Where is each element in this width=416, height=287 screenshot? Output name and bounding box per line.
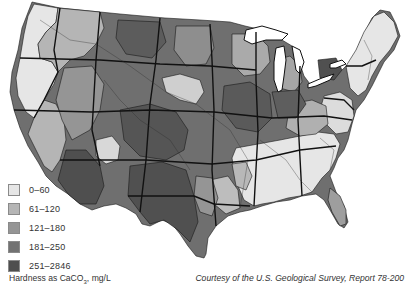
legend-item: 61–120 (8, 199, 71, 218)
map-legend: 0–60 61–120 121–180 181–250 251–2846 (8, 180, 71, 275)
legend-label: 61–120 (29, 204, 60, 214)
legend-item: 181–250 (8, 237, 71, 256)
legend-item: 121–180 (8, 218, 71, 237)
legend-label: 181–250 (29, 242, 65, 252)
legend-swatch-0-60 (8, 184, 20, 196)
legend-item: 0–60 (8, 180, 71, 199)
legend-label: 121–180 (29, 223, 65, 233)
source-credit: Courtesy of the U.S. Geological Survey, … (195, 273, 404, 283)
units-suffix: , mg/L (87, 273, 111, 283)
units-label: Hardness as CaCO3, mg/L (9, 273, 111, 285)
units-prefix: Hardness as CaCO (9, 273, 84, 283)
legend-swatch-61-120 (8, 203, 20, 215)
region-251-2846-texas (128, 162, 198, 242)
legend-swatch-181-250 (8, 241, 20, 253)
region-61-120-florida (328, 188, 346, 226)
legend-label: 251–2846 (29, 261, 71, 271)
legend-label: 0–60 (29, 185, 50, 195)
legend-swatch-121-180 (8, 222, 20, 234)
legend-swatch-251-2846 (8, 260, 20, 272)
